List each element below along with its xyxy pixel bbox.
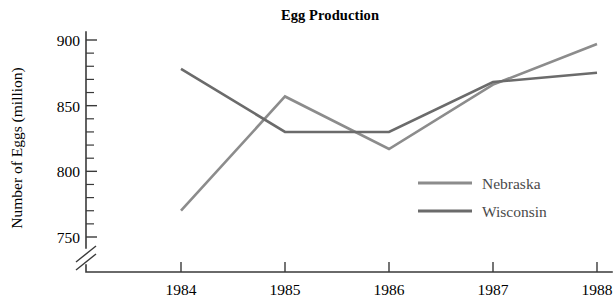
- series-line-wisconsin: [181, 69, 597, 132]
- x-axis-line: [86, 265, 612, 272]
- x-axis-ticks: [181, 262, 597, 272]
- x-tick-label: 1988: [582, 281, 613, 298]
- x-tick-label: 1986: [374, 281, 405, 298]
- legend-label-wisconsin: Wisconsin: [482, 203, 547, 220]
- legend-label-nebraska: Nebraska: [482, 175, 541, 192]
- y-axis-tick-labels: 900850800750: [57, 32, 81, 246]
- y-axis-title: Number of Eggs (million): [8, 67, 26, 228]
- y-tick-label: 900: [57, 32, 81, 49]
- y-tick-label: 800: [57, 163, 81, 180]
- chart-legend: NebraskaWisconsin: [418, 175, 547, 220]
- y-tick-label: 750: [57, 229, 81, 246]
- x-tick-label: 1987: [478, 281, 509, 298]
- x-tick-label: 1985: [270, 281, 301, 298]
- chart-container: Egg Production Number of Eggs (million) …: [0, 0, 615, 305]
- egg-production-line-chart: Egg Production Number of Eggs (million) …: [0, 0, 615, 305]
- x-tick-label: 1984: [166, 281, 197, 298]
- x-axis-tick-labels: 19841985198619871988: [166, 281, 613, 298]
- chart-title: Egg Production: [281, 7, 379, 23]
- y-axis-ticks: [86, 40, 97, 237]
- y-tick-label: 850: [57, 98, 81, 115]
